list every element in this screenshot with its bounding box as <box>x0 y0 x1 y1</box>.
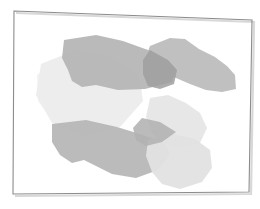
shape-layer <box>36 35 236 189</box>
artwork-svg <box>0 0 260 209</box>
artwork-canvas <box>0 0 260 209</box>
